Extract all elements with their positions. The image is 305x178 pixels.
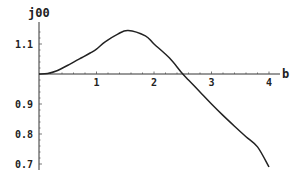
x-axis-label: b	[282, 67, 289, 81]
x-tick-label: 4	[266, 77, 272, 88]
line-chart: 12340.70.80.91.1 b j00	[0, 0, 305, 178]
y-tick-label: 1.1	[15, 39, 33, 50]
y-tick-label: 0.9	[15, 99, 33, 110]
series-line-j00	[39, 30, 269, 167]
axes	[39, 22, 280, 170]
x-tick-label: 2	[151, 77, 157, 88]
y-tick-label: 0.7	[15, 159, 33, 170]
x-tick-label: 3	[209, 77, 215, 88]
y-axis-label: j00	[28, 6, 50, 20]
data-series	[39, 30, 269, 167]
x-tick-label: 1	[94, 77, 100, 88]
y-tick-label: 0.8	[15, 129, 33, 140]
ticks: 12340.70.80.91.1	[15, 32, 272, 170]
